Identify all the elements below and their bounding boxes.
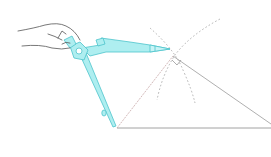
arc-left <box>150 28 195 103</box>
compass-construction-figure: Compass construction: drawing intersecti… <box>0 0 271 157</box>
compass <box>64 36 170 127</box>
triangle <box>117 56 271 128</box>
arc-right <box>157 19 220 100</box>
construction-arcs <box>150 19 220 103</box>
